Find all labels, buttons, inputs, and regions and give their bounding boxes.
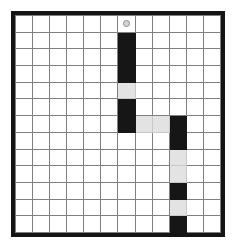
grid-cell[interactable] [50,216,67,233]
grid-cell[interactable] [203,199,220,216]
grid-cell[interactable] [84,149,101,166]
grid-cell[interactable] [186,66,203,83]
grid-cell[interactable] [101,132,118,149]
grid-cell[interactable] [118,199,135,216]
grid-cell[interactable] [101,199,118,216]
grid-cell[interactable] [33,16,50,33]
grid-cell[interactable] [16,149,33,166]
grid-cell[interactable] [84,216,101,233]
grid-cell[interactable] [50,199,67,216]
grid-cell[interactable] [186,99,203,116]
grid-cell[interactable] [16,199,33,216]
grid-cell[interactable] [16,82,33,99]
grid-cell[interactable] [33,32,50,49]
grid-cell[interactable] [16,99,33,116]
grid-cell[interactable] [169,49,186,66]
grid-cell[interactable] [169,82,186,99]
grid-cell[interactable] [16,66,33,83]
grid-cell[interactable] [84,66,101,83]
grid-cell[interactable] [152,182,169,199]
grid-cell[interactable] [67,199,84,216]
grid-cell[interactable] [169,16,186,33]
grid-cell[interactable] [118,132,135,149]
grid-cell[interactable] [101,149,118,166]
grid-cell[interactable] [203,132,220,149]
grid-cell[interactable] [101,32,118,49]
grid-cell[interactable] [186,216,203,233]
grid-cell[interactable] [152,16,169,33]
grid-cell[interactable] [33,99,50,116]
grid-cell[interactable] [203,66,220,83]
grid-cell[interactable] [67,49,84,66]
grid-cell[interactable] [16,182,33,199]
grid-cell[interactable] [50,66,67,83]
grid-cell[interactable] [203,99,220,116]
grid-cell[interactable] [203,116,220,133]
grid-cell[interactable] [118,116,135,133]
grid-cell[interactable] [16,116,33,133]
grid-cell[interactable] [169,99,186,116]
grid-cell[interactable] [169,149,186,166]
grid-cell[interactable] [135,116,152,133]
grid-cell[interactable] [169,166,186,183]
grid-cell[interactable] [169,216,186,233]
grid-cell[interactable] [186,82,203,99]
grid-cell[interactable] [186,166,203,183]
grid-cell[interactable] [67,216,84,233]
grid-cell[interactable] [118,16,135,33]
grid-cell[interactable] [67,66,84,83]
grid-cell[interactable] [135,49,152,66]
grid-cell[interactable] [135,166,152,183]
grid-cell[interactable] [135,149,152,166]
grid-cell[interactable] [33,66,50,83]
grid-cell[interactable] [50,182,67,199]
grid-cell[interactable] [152,99,169,116]
grid-cell[interactable] [84,16,101,33]
grid-cell[interactable] [33,116,50,133]
grid-cell[interactable] [203,49,220,66]
grid-cell[interactable] [169,182,186,199]
grid-cell[interactable] [33,49,50,66]
grid-cell[interactable] [152,49,169,66]
grid-cell[interactable] [84,32,101,49]
grid-cell[interactable] [84,166,101,183]
grid-cell[interactable] [101,216,118,233]
grid-cell[interactable] [84,82,101,99]
grid-cell[interactable] [135,99,152,116]
grid-cell[interactable] [50,99,67,116]
grid-cell[interactable] [203,16,220,33]
grid-cell[interactable] [135,32,152,49]
grid-cell[interactable] [169,199,186,216]
grid-cell[interactable] [118,166,135,183]
grid-cell[interactable] [33,182,50,199]
grid-cell[interactable] [186,116,203,133]
grid-cell[interactable] [101,66,118,83]
grid-cell[interactable] [135,132,152,149]
grid-cell[interactable] [186,149,203,166]
grid-cell[interactable] [50,166,67,183]
grid-cell[interactable] [152,132,169,149]
grid-cell[interactable] [118,99,135,116]
grid-cell[interactable] [101,99,118,116]
grid-cell[interactable] [203,166,220,183]
grid-cell[interactable] [67,82,84,99]
grid-cell[interactable] [101,49,118,66]
grid-cell[interactable] [33,216,50,233]
grid-cell[interactable] [50,16,67,33]
grid-cell[interactable] [67,132,84,149]
grid-cell[interactable] [67,182,84,199]
grid-cell[interactable] [203,32,220,49]
grid-cell[interactable] [118,49,135,66]
grid-cell[interactable] [84,49,101,66]
grid-cell[interactable] [67,99,84,116]
grid-cell[interactable] [50,116,67,133]
grid-cell[interactable] [33,82,50,99]
grid-cell[interactable] [118,216,135,233]
grid-cell[interactable] [50,149,67,166]
grid-cell[interactable] [186,49,203,66]
grid-cell[interactable] [203,216,220,233]
grid-cell[interactable] [135,16,152,33]
grid-cell[interactable] [118,182,135,199]
grid-cell[interactable] [50,132,67,149]
grid-cell[interactable] [169,66,186,83]
